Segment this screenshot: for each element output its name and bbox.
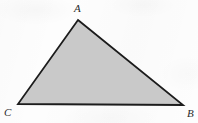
figure-canvas: A B C — [0, 0, 198, 123]
vertex-label-a: A — [74, 3, 81, 14]
triangle-shape — [18, 20, 183, 105]
vertex-label-b: B — [187, 108, 194, 119]
triangle-graphic — [0, 0, 198, 123]
vertex-label-c: C — [4, 107, 12, 118]
